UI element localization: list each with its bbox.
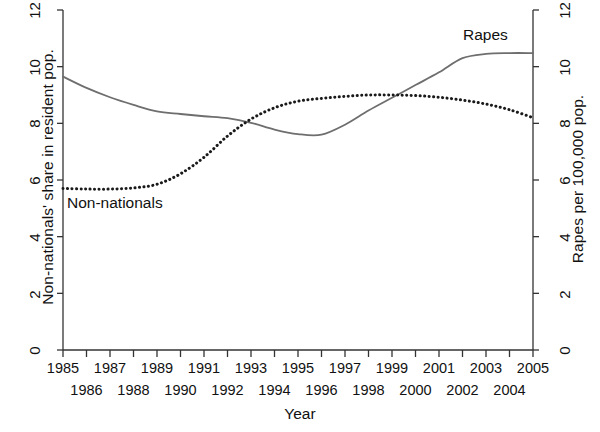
data-series: [63, 53, 533, 189]
chart-figure: Non-nationals' share in resident pop. Ra…: [0, 0, 600, 432]
series-line-rapes: [63, 53, 533, 135]
axes: [57, 10, 539, 357]
series-line-non-nationals: [63, 95, 533, 189]
plot-area: [0, 0, 600, 432]
